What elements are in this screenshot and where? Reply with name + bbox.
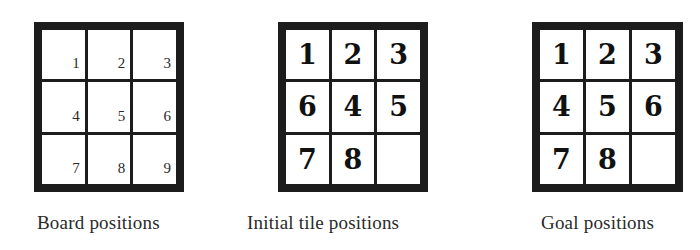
initial-cell-4: 6	[286, 82, 329, 131]
tile: 8	[598, 146, 617, 173]
initial-board-grid: 1 2 3 6 4 5 7 8	[278, 22, 428, 192]
goal-cell-4: 4	[540, 82, 583, 131]
initial-cell-5: 4	[332, 82, 375, 131]
initial-tile-positions-panel: 1 2 3 6 4 5 7 8 Initial tile positions 1…	[0, 0, 700, 250]
tile: 7	[298, 146, 317, 173]
initial-cell-9-blank	[377, 135, 420, 184]
tile: 3	[389, 41, 408, 68]
tile: 8	[344, 146, 363, 173]
initial-cell-2: 2	[332, 30, 375, 79]
goal-cell-3: 3	[632, 30, 675, 79]
goal-cell-7: 7	[540, 135, 583, 184]
tile: 1	[552, 41, 571, 68]
tile: 4	[344, 93, 363, 120]
goal-cell-6: 6	[632, 82, 675, 131]
tile: 5	[389, 93, 408, 120]
goal-positions-caption: Goal positions	[541, 212, 654, 234]
initial-tile-positions-caption: Initial tile positions	[247, 212, 399, 234]
goal-cell-2: 2	[586, 30, 629, 79]
goal-cell-5: 5	[586, 82, 629, 131]
goal-cell-8: 8	[586, 135, 629, 184]
goal-cell-1: 1	[540, 30, 583, 79]
goal-cell-9-blank	[632, 135, 675, 184]
tile: 6	[644, 93, 663, 120]
initial-cell-8: 8	[332, 135, 375, 184]
goal-board-grid: 1 2 3 4 5 6 7 8	[532, 22, 683, 192]
tile: 2	[598, 41, 617, 68]
initial-cell-6: 5	[377, 82, 420, 131]
tile: 7	[552, 146, 571, 173]
initial-cell-1: 1	[286, 30, 329, 79]
initial-cell-3: 3	[377, 30, 420, 79]
tile: 6	[298, 93, 317, 120]
tile: 2	[344, 41, 363, 68]
tile: 4	[552, 93, 571, 120]
initial-cell-7: 7	[286, 135, 329, 184]
tile: 5	[598, 93, 617, 120]
tile: 1	[298, 41, 317, 68]
tile: 3	[644, 41, 663, 68]
